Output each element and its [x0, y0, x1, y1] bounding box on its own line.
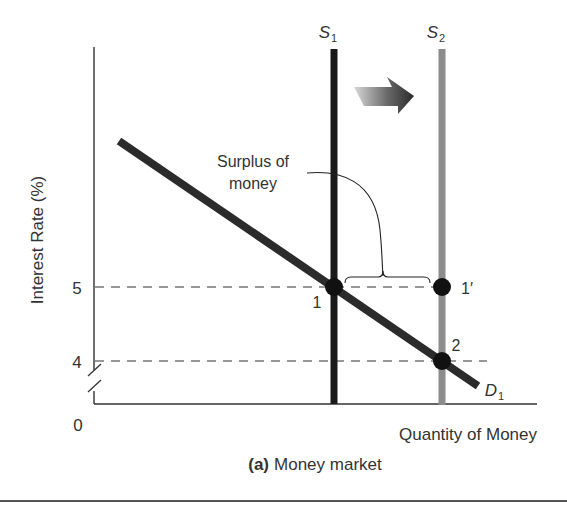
point-2-label: 2 [452, 337, 461, 354]
s1-subscript: 1 [331, 32, 337, 44]
x-axis-label: Quantity of Money [399, 425, 537, 444]
y-axis-label: Interest Rate (%) [28, 176, 47, 305]
y-tick-5: 5 [72, 279, 81, 298]
s1-label: S [319, 23, 331, 42]
point-1-prime [433, 278, 451, 296]
demand-curve-d1 [119, 141, 478, 386]
money-market-chart: 5 4 0 Interest Rate (%) Quantity of Mone… [0, 0, 567, 505]
origin-label: 0 [73, 416, 82, 435]
equilibrium-point-1 [325, 278, 343, 296]
y-tick-4: 4 [72, 353, 81, 372]
d1-label: D [485, 381, 497, 400]
s2-label: S [427, 23, 439, 42]
surplus-label-line1: Surplus of [217, 153, 290, 170]
d1-subscript: 1 [498, 390, 504, 402]
point-1-label: 1 [313, 294, 322, 311]
s2-subscript: 2 [439, 32, 445, 44]
shift-right-arrow-icon [354, 77, 414, 114]
surplus-brace [345, 271, 430, 283]
point-1-prime-label: 1′ [461, 280, 473, 297]
surplus-callout-line [307, 173, 383, 276]
figure-caption: (a)Money market [248, 455, 382, 474]
equilibrium-point-2 [433, 352, 451, 370]
surplus-label-line2: money [229, 175, 277, 192]
